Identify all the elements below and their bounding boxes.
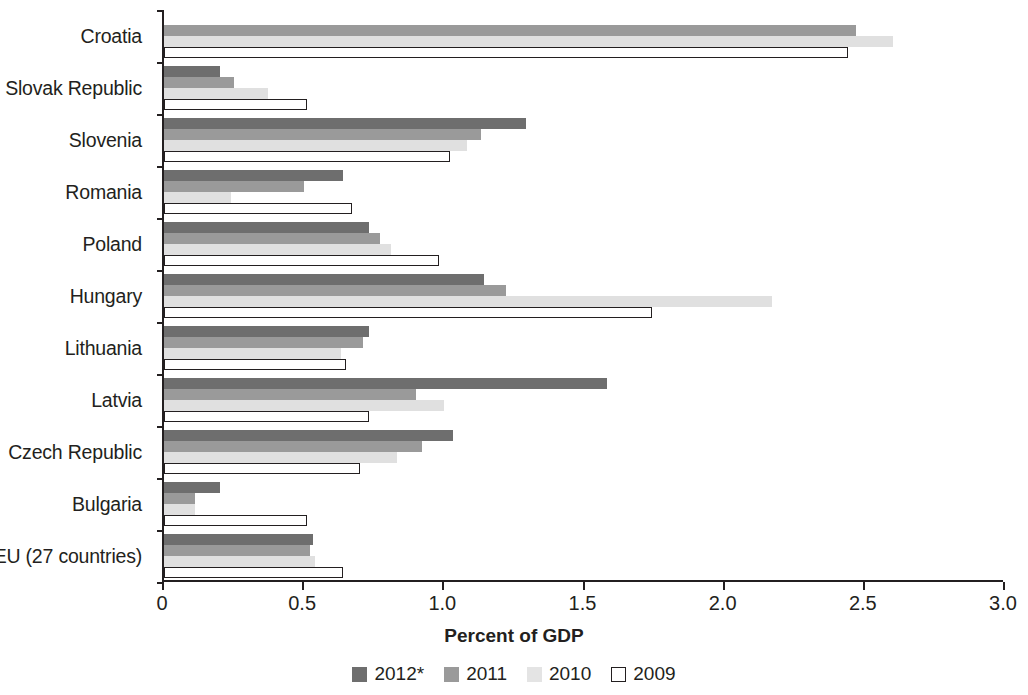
bar-2010-bulgaria [164, 504, 195, 515]
y-axis-tick [157, 530, 164, 532]
bar-2010-romania [164, 192, 231, 203]
legend-item-2011[interactable]: 2011 [444, 663, 507, 685]
x-axis-title: Percent of GDP [0, 625, 1028, 647]
y-axis-tick [157, 166, 164, 168]
legend-label: 2012* [374, 663, 424, 685]
plot-area [162, 10, 1003, 582]
bar-2011-poland [164, 233, 380, 244]
y-axis-label-hungary: Hungary [70, 285, 142, 308]
x-axis: 00.51.01.52.02.53.0 [162, 582, 1003, 622]
bar-2011-hungary [164, 285, 506, 296]
y-axis-label-croatia: Croatia [81, 25, 142, 48]
y-axis-tick [157, 374, 164, 376]
bar-2010-croatia [164, 36, 893, 47]
bar-2011-bulgaria [164, 493, 195, 504]
x-axis-tick-label: 3.0 [989, 592, 1017, 615]
legend-swatch-2011-icon [444, 667, 459, 682]
y-axis-tick [157, 478, 164, 480]
chart-legend: 2012*201120102009 [0, 663, 1028, 685]
legend-label: 2011 [466, 663, 507, 685]
bar-2012-czech-republic [164, 430, 453, 441]
bar-2009-bulgaria [164, 515, 307, 526]
x-axis-tick-label: 0.5 [288, 592, 316, 615]
bar-2012-lithuania [164, 326, 369, 337]
bar-2010-lithuania [164, 348, 341, 359]
legend-item-2010[interactable]: 2010 [527, 663, 591, 685]
bar-2012-latvia [164, 378, 607, 389]
bar-2011-slovenia [164, 129, 481, 140]
bar-2012-eu-27-countries [164, 534, 313, 545]
x-axis-tick [442, 582, 444, 590]
legend-swatch-2012-icon [352, 667, 367, 682]
y-axis-tick [157, 426, 164, 428]
x-axis-tick [162, 582, 164, 590]
chart-page: CroatiaSlovak RepublicSloveniaRomaniaPol… [0, 0, 1028, 695]
bar-2011-eu-27-countries [164, 545, 310, 556]
bar-2011-lithuania [164, 337, 363, 348]
bar-2009-slovak-republic [164, 99, 307, 110]
x-axis-tick [302, 582, 304, 590]
bar-2011-romania [164, 181, 304, 192]
bar-2009-czech-republic [164, 463, 360, 474]
legend-swatch-2010-icon [527, 667, 542, 682]
y-axis-label-slovenia: Slovenia [69, 129, 142, 152]
bar-2012-slovenia [164, 118, 526, 129]
y-axis-tick [157, 10, 164, 12]
bar-2012-poland [164, 222, 369, 233]
x-axis-tick-label: 1.0 [428, 592, 456, 615]
bar-2010-poland [164, 244, 391, 255]
y-axis-label-poland: Poland [82, 233, 142, 256]
y-axis-label-latvia: Latvia [91, 389, 142, 412]
y-axis-label-bulgaria: Bulgaria [72, 493, 142, 516]
bar-2010-hungary [164, 296, 772, 307]
y-axis-label-romania: Romania [65, 181, 142, 204]
bar-2009-croatia [164, 47, 848, 58]
bar-2009-poland [164, 255, 439, 266]
bar-2009-latvia [164, 411, 369, 422]
y-axis-label-czech-republic: Czech Republic [8, 441, 142, 464]
bar-2009-hungary [164, 307, 652, 318]
legend-label: 2010 [549, 663, 591, 685]
y-axis-tick [157, 322, 164, 324]
bar-2010-slovak-republic [164, 88, 268, 99]
x-axis-tick-label: 2.5 [849, 592, 877, 615]
bar-2010-latvia [164, 400, 444, 411]
x-axis-tick [723, 582, 725, 590]
y-axis-label-slovak-republic: Slovak Republic [5, 77, 142, 100]
bar-2012-romania [164, 170, 343, 181]
x-axis-tick [863, 582, 865, 590]
bar-2009-lithuania [164, 359, 346, 370]
x-axis-tick [1003, 582, 1005, 590]
y-axis-category-labels: CroatiaSlovak RepublicSloveniaRomaniaPol… [0, 10, 152, 582]
bar-2011-czech-republic [164, 441, 422, 452]
bar-2009-slovenia [164, 151, 450, 162]
bar-2012-slovak-republic [164, 66, 220, 77]
y-axis-tick [157, 270, 164, 272]
y-axis-label-lithuania: Lithuania [65, 337, 142, 360]
bar-2011-latvia [164, 389, 416, 400]
legend-label: 2009 [633, 663, 675, 685]
x-axis-tick-label: 2.0 [709, 592, 737, 615]
y-axis-tick [157, 218, 164, 220]
y-axis-tick [157, 114, 164, 116]
x-axis-tick-label: 0 [156, 592, 167, 615]
bar-2012-bulgaria [164, 482, 220, 493]
bar-2010-slovenia [164, 140, 467, 151]
bar-2011-croatia [164, 25, 856, 36]
x-axis-tick [583, 582, 585, 590]
x-axis-tick-label: 1.5 [569, 592, 597, 615]
bar-2010-eu-27-countries [164, 556, 315, 567]
bar-2012-hungary [164, 274, 484, 285]
y-axis-label-eu-27-countries: EU (27 countries) [0, 545, 142, 568]
legend-item-2012[interactable]: 2012* [352, 663, 424, 685]
y-axis-tick [157, 62, 164, 64]
bar-2010-czech-republic [164, 452, 397, 463]
legend-item-2009[interactable]: 2009 [611, 663, 675, 685]
bar-2009-eu-27-countries [164, 567, 343, 578]
legend-swatch-2009-icon [611, 667, 626, 682]
bar-2011-slovak-republic [164, 77, 234, 88]
bar-2009-romania [164, 203, 352, 214]
